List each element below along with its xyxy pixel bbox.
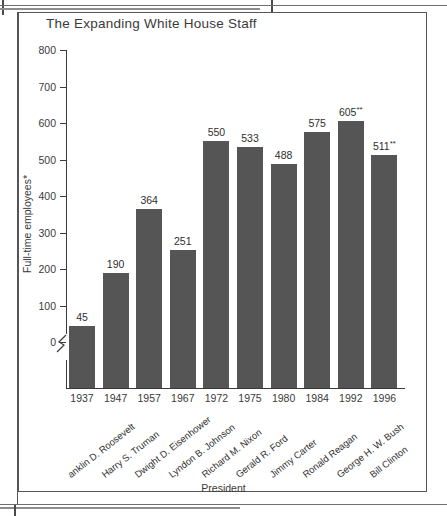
bar-value-label: 533 <box>226 133 274 144</box>
footnote-marker: ** <box>390 139 396 148</box>
bar-value-label: 190 <box>92 259 140 270</box>
bar[interactable] <box>170 250 196 388</box>
y-axis-tick-label: 700 <box>26 82 56 93</box>
y-axis-tick-label: 0 <box>26 337 56 348</box>
y-axis-tick <box>60 196 66 197</box>
y-axis-tick <box>60 50 66 51</box>
y-axis-tick <box>60 233 66 234</box>
y-axis-tick <box>60 123 66 124</box>
bar-value-label: 251 <box>159 236 207 247</box>
x-axis-year-label: 1996 <box>364 393 404 404</box>
bar[interactable] <box>371 155 397 388</box>
bar[interactable] <box>338 121 364 388</box>
bar[interactable] <box>203 141 229 388</box>
bar-value-label: 45 <box>58 312 106 323</box>
y-axis-tick <box>60 306 66 307</box>
x-axis-title: President <box>0 482 447 494</box>
bar-value-label: 511** <box>360 141 408 152</box>
x-axis-line <box>66 388 405 389</box>
y-axis-tick <box>60 269 66 270</box>
bar-value-label: 575 <box>293 118 341 129</box>
bar[interactable] <box>304 132 330 388</box>
bar-value-label: 488 <box>260 150 308 161</box>
bar[interactable] <box>69 326 95 388</box>
footnote-marker: ** <box>356 105 362 114</box>
y-axis-tick <box>60 342 66 343</box>
y-axis-line <box>66 50 67 334</box>
y-axis-tick <box>60 160 66 161</box>
bar[interactable] <box>237 147 263 388</box>
y-axis-line-lower <box>66 360 67 389</box>
y-axis-tick-label: 800 <box>26 45 56 56</box>
bar[interactable] <box>103 273 129 388</box>
bar[interactable] <box>271 164 297 388</box>
bar-chart-plot: 0100200300400500600700800 Full-time empl… <box>0 0 447 516</box>
y-axis-tick-label: 100 <box>26 301 56 312</box>
y-axis-tick-label: 600 <box>26 118 56 129</box>
bar-value-label: 364 <box>125 195 173 206</box>
bar-value-label: 605** <box>327 107 375 118</box>
y-axis-title: Full-time employees* <box>21 164 33 284</box>
y-axis-tick <box>60 87 66 88</box>
